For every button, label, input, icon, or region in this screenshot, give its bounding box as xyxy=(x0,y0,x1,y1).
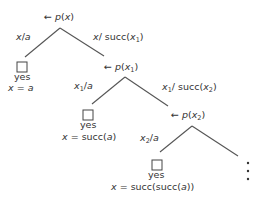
vertical-ellipsis-icon xyxy=(247,162,249,180)
leaf-answer-2: x = succ(succ(a)) xyxy=(110,181,194,192)
leaf-result-1: yes xyxy=(80,119,96,130)
edge-label-n1-right: x1/ succ(x2) xyxy=(161,81,217,94)
goal-node-2: ← p(x2) xyxy=(171,109,205,122)
leaf-answer-1: x = succ(a) xyxy=(61,131,116,142)
goal-node-root: ← p(x) xyxy=(44,11,74,22)
goal-node-1: ← p(x1) xyxy=(104,61,138,74)
edge-n1-left xyxy=(92,77,125,104)
edge-label-root-left: x/a xyxy=(15,31,31,42)
ellipsis-dot xyxy=(247,170,249,172)
ellipsis-dot xyxy=(247,162,249,164)
resolution-tree-diagram: ← p(x) x/a x/ succ(x1) yes x = a ← p(x1)… xyxy=(0,0,260,206)
leaf-answer-0: x = a xyxy=(7,82,34,93)
leaf-result-0: yes xyxy=(14,71,30,82)
leaf-result-2: yes xyxy=(148,169,164,180)
edge-label-n2-left: x2/a xyxy=(139,132,159,145)
edge-label-root-right: x/ succ(x1) xyxy=(92,31,143,44)
edge-n2-right xyxy=(192,126,238,156)
edge-n2-left xyxy=(160,126,192,152)
ellipsis-dot xyxy=(247,178,249,180)
edge-label-n1-left: x1/a xyxy=(73,80,93,93)
